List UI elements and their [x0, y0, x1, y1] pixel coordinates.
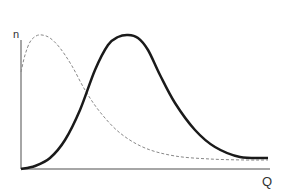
- x-axis-label: Q: [262, 174, 272, 189]
- y-axis-label: n: [13, 28, 19, 40]
- chart-svg: [0, 0, 285, 192]
- solid-curve: [21, 35, 268, 169]
- dashed-curve: [21, 35, 268, 160]
